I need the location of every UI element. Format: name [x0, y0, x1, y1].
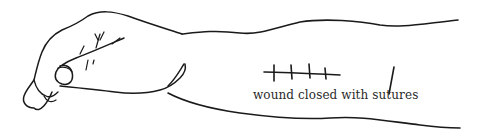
wound-caption: wound closed with sutures	[253, 88, 418, 102]
palm-outline	[60, 64, 185, 93]
suture-2	[291, 65, 292, 79]
sutured-wound	[264, 64, 340, 81]
forearm-top-outline	[182, 20, 458, 34]
suture-4	[325, 68, 326, 79]
arm-illustration	[0, 0, 480, 131]
suture-3	[309, 64, 310, 78]
wrist-crease	[168, 64, 184, 86]
thumb-outline	[55, 38, 124, 84]
knuckle-crease-1	[80, 46, 84, 54]
thumb-crease	[86, 60, 94, 70]
finger-curl-1	[34, 80, 58, 97]
hand-outline	[23, 12, 182, 110]
wound-line	[264, 72, 340, 75]
